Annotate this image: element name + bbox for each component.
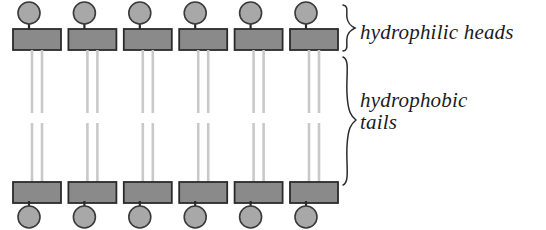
bottom-leaflet <box>13 123 338 228</box>
hydrophilic-head-circle <box>184 206 206 228</box>
hydrophilic-head-circle <box>73 206 95 228</box>
label-hydrophilic-heads: hydrophilic heads <box>360 21 514 43</box>
hydrophilic-head-rect <box>290 29 338 50</box>
hydrophilic-head-circle <box>18 206 40 228</box>
hydrophilic-head-rect <box>290 182 338 203</box>
hydrophilic-head-rect <box>124 182 172 203</box>
lipid-bottom-4 <box>179 123 227 228</box>
hydrophilic-head-circle <box>240 206 262 228</box>
hydrophilic-head-circle <box>73 2 95 24</box>
hydrophilic-head-rect <box>179 182 227 203</box>
hydrophilic-head-circle <box>295 206 317 228</box>
label-hydrophobic-tails: hydrophobic tails <box>360 89 468 133</box>
brace-group <box>343 5 356 185</box>
lipid-bottom-3 <box>124 123 172 228</box>
hydrophilic-head-circle <box>184 2 206 24</box>
lipid-top-4 <box>179 2 227 113</box>
lipid-top-3 <box>124 2 172 113</box>
hydrophilic-head-rect <box>68 29 116 50</box>
hydrophilic-head-rect <box>13 182 61 203</box>
hydrophilic-head-rect <box>235 29 283 50</box>
hydrophilic-head-circle <box>129 2 151 24</box>
label-hydrophobic-tails-line2: tails <box>360 111 468 133</box>
hydrophilic-head-circle <box>295 2 317 24</box>
top-leaflet <box>13 2 338 113</box>
label-hydrophobic-tails-line1: hydrophobic <box>360 89 468 111</box>
phospholipid-bilayer-diagram: hydrophilic heads hydrophobic tails <box>0 0 546 230</box>
hydrophilic-head-circle <box>129 206 151 228</box>
hydrophilic-head-rect <box>235 182 283 203</box>
lipid-top-6 <box>290 2 338 113</box>
lipid-top-5 <box>235 2 283 113</box>
hydrophilic-head-circle <box>240 2 262 24</box>
lipid-top-2 <box>68 2 116 113</box>
hydrophilic-head-circle <box>18 2 40 24</box>
lipid-top-1 <box>13 2 61 113</box>
lipid-bottom-5 <box>235 123 283 228</box>
lipid-bottom-6 <box>290 123 338 228</box>
hydrophilic-head-rect <box>68 182 116 203</box>
brace-hydrophilic-heads <box>343 5 355 51</box>
hydrophilic-head-rect <box>179 29 227 50</box>
lipid-bottom-2 <box>68 123 116 228</box>
hydrophilic-head-rect <box>13 29 61 50</box>
brace-hydrophobic-tails <box>343 57 356 185</box>
lipid-bottom-1 <box>13 123 61 228</box>
hydrophilic-head-rect <box>124 29 172 50</box>
